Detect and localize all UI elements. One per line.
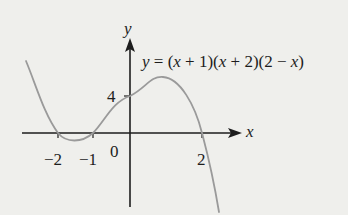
y-tick-label-4: 4 [107,88,116,105]
cubic-curve [26,61,219,212]
chart-canvas [0,0,348,215]
x-tick-label-neg2: −2 [44,151,62,168]
origin-label: 0 [110,143,119,160]
x-tick-label-2: 2 [197,151,206,168]
x-tick-label-neg1: −1 [79,151,97,168]
equation-label: y = (x + 1)(x + 2)(2 − x) [142,53,304,70]
x-axis-label: x [246,123,254,140]
y-axis-label: y [124,20,132,37]
